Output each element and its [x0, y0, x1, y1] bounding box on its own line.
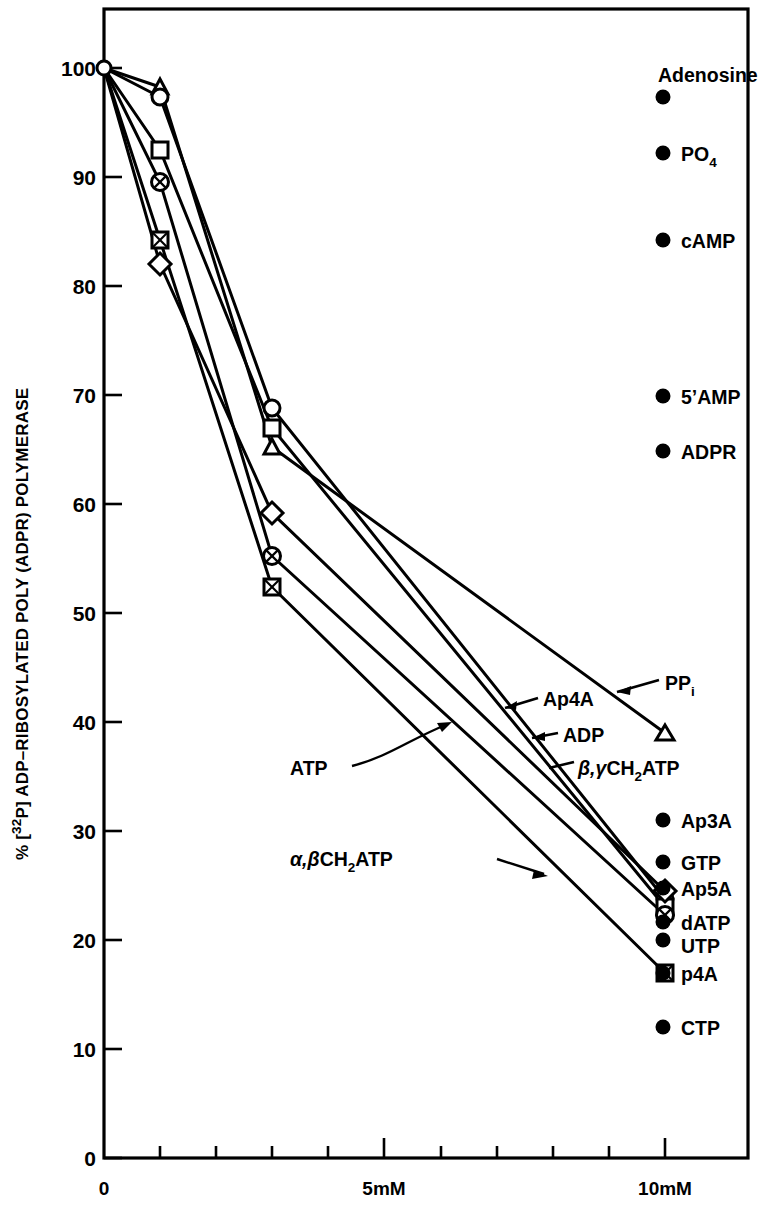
series-line-bgch2atp [104, 68, 665, 915]
y-tick-label: 10 [73, 1038, 96, 1061]
endpoint-label-camp: cAMP [681, 230, 735, 252]
marker-circle-cross-bgch2atp-3mm [264, 548, 281, 565]
annotation-ap4a: Ap4A [505, 688, 594, 710]
endpoint-dot-ap3a [656, 813, 671, 828]
endpoint-label-po4: PO4 [681, 143, 717, 170]
annotation-ppi-sub: i [691, 684, 695, 699]
marker-square-adp-3mm [264, 420, 280, 436]
endpoint-label-p4a: p4A [681, 963, 718, 985]
y-tick-label: 0 [84, 1147, 96, 1170]
series-line-ppi [104, 68, 665, 733]
endpoint-label-po4-main: PO [681, 143, 709, 165]
annotation-label-ap4a: Ap4A [543, 688, 594, 710]
marker-triangle-ppi-3mm [264, 439, 280, 454]
marker-circle-ap4a-3mm [264, 400, 280, 416]
endpoint-dot-po4 [656, 146, 671, 161]
marker-circle-ap4a-1mm [152, 89, 168, 105]
annotation-abch2atp: α,βCH2ATP [290, 848, 548, 879]
y-axis-ticks [104, 68, 122, 1158]
annotation-ppi-main: PP [665, 672, 691, 694]
chart-canvas: 100 90 80 70 60 50 40 30 20 10 0 [0, 0, 762, 1212]
endpoint-dot-utp [656, 933, 671, 948]
y-tick-labels: 100 90 80 70 60 50 40 30 20 10 0 [61, 57, 96, 1170]
endpoint-label-adpr: ADPR [681, 441, 736, 463]
annotation-label-adp: ADP [563, 724, 604, 746]
marker-square-cross-abch2atp-3mm [264, 579, 280, 595]
endpoint-item-ctp: CTP [656, 1017, 721, 1039]
x-tick-label-10mm: 10mM [638, 1178, 692, 1199]
x-tick-label-5mm: 5mM [362, 1178, 405, 1199]
annotation-ppi: PPi [617, 672, 695, 699]
endpoint-label-adenosine: Adenosine [658, 64, 758, 86]
annotation-abch2atp-greek: α,β [290, 848, 320, 870]
y-tick-label: 50 [73, 602, 96, 625]
y-tick-label: 30 [73, 820, 96, 843]
endpoint-dot-camp [656, 233, 671, 248]
y-tick-label: 20 [73, 929, 96, 952]
marker-square-cross-abch2atp-1mm [152, 232, 168, 248]
endpoint-item-adpr: ADPR [656, 441, 737, 463]
marker-square-adp-1mm [152, 142, 168, 158]
endpoint-dot-ap5a [656, 881, 671, 896]
endpoint-dot-gtp [656, 855, 671, 870]
endpoint-dot-adenosine [656, 90, 671, 105]
y-tick-label: 60 [73, 493, 96, 516]
endpoint-item-ap3a: Ap3A [656, 810, 732, 832]
annotation-adp: ADP [532, 724, 604, 746]
annotation-label-ppi: PPi [665, 672, 695, 699]
y-axis-title: % [32P] ADP–RIBOSYLATED POLY (ADPR) POLY… [9, 388, 32, 860]
endpoint-dot-5amp [656, 389, 671, 404]
endpoint-item-gtp: GTP [656, 852, 722, 874]
endpoint-label-datp: dATP [681, 912, 730, 934]
annotation-bgch2atp-tail: ATP [642, 757, 680, 779]
endpoint-label-5amp: 5’AMP [681, 386, 741, 408]
annotation-label-bgch2atp: β,γCH2ATP [577, 757, 680, 784]
annotation-abch2atp-sub: 2 [348, 860, 356, 875]
x-axis-ticks [160, 1138, 665, 1158]
endpoint-label-utp: UTP [681, 935, 720, 957]
y-axis-title-prefix: % [ [13, 834, 32, 860]
annotation-bgch2atp-greek: β,γ [577, 757, 608, 779]
annotation-atp: ATP [290, 722, 452, 779]
figure-container: 100 90 80 70 60 50 40 30 20 10 0 [0, 0, 762, 1212]
annotation-bgch2atp-sub: 2 [635, 769, 643, 784]
line-annotations: Ap4A ADP β,γCH2ATP PPi [290, 672, 695, 879]
annotation-bgch2atp-ch: CH [606, 757, 634, 779]
endpoint-item-5amp: 5’AMP [656, 386, 741, 408]
y-tick-label: 40 [73, 711, 96, 734]
y-axis-title-main: P] ADP–RIBOSYLATED POLY (ADPR) POLYMERAS… [13, 388, 32, 819]
endpoint-label-po4-sub: 4 [709, 155, 717, 170]
annotation-label-atp: ATP [290, 757, 328, 779]
x-tick-label-0: 0 [99, 1178, 110, 1199]
y-tick-label: 100 [61, 57, 96, 80]
series-markers [97, 61, 676, 981]
series-line-adp [104, 68, 665, 907]
endpoint-item-po4: PO4 [656, 143, 718, 170]
endpoint-item-camp: cAMP [656, 230, 736, 252]
marker-circle-cross-bgch2atp-1mm [152, 174, 169, 191]
endpoint-item-adenosine: Adenosine [656, 64, 758, 105]
endpoint-dot-p4a [656, 966, 671, 981]
endpoint-dot-ctp [656, 1020, 671, 1035]
plot-frame [104, 9, 748, 1158]
svg-text:% [32P] ADP–RIBOSYLATED POLY (: % [32P] ADP–RIBOSYLATED POLY (ADPR) POLY… [9, 388, 32, 860]
endpoint-item-utp: UTP [656, 933, 721, 958]
endpoint-dot-adpr [656, 444, 671, 459]
annotation-label-abch2atp: α,βCH2ATP [290, 848, 393, 875]
annotation-abch2atp-ch: CH [320, 848, 348, 870]
marker-diamond-atp-1mm [149, 253, 171, 275]
y-tick-label: 80 [73, 275, 96, 298]
y-tick-label: 70 [73, 384, 96, 407]
endpoint-label-ctp: CTP [681, 1017, 720, 1039]
endpoint-label-ap3a: Ap3A [681, 810, 732, 832]
marker-origin [97, 61, 111, 75]
y-axis-title-superscript: 32 [9, 818, 24, 833]
endpoint-label-gtp: GTP [681, 852, 721, 874]
series-lines [104, 68, 665, 973]
annotation-abch2atp-tail: ATP [355, 848, 393, 870]
x-tick-labels: 0 5mM 10mM [99, 1178, 692, 1199]
endpoint-label-ap5a: Ap5A [681, 878, 732, 900]
endpoint-dot-datp [656, 915, 671, 930]
y-tick-label: 90 [73, 166, 96, 189]
